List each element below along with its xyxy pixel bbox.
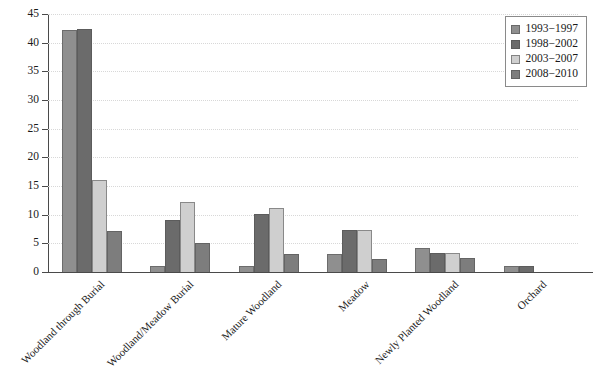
bar bbox=[357, 230, 372, 272]
legend-swatch-icon bbox=[511, 40, 520, 49]
bar bbox=[165, 220, 180, 272]
bar bbox=[415, 248, 430, 272]
y-axis-tick-mark bbox=[42, 43, 48, 44]
y-axis-tick-mark bbox=[42, 243, 48, 244]
y-axis-tick-mark bbox=[42, 157, 48, 158]
y-axis-tick-label: 5 bbox=[33, 238, 39, 250]
y-axis-tick-mark bbox=[42, 100, 48, 101]
legend-swatch-icon bbox=[511, 55, 520, 64]
bar bbox=[107, 231, 122, 272]
legend-item: 2008−2010 bbox=[511, 67, 579, 81]
bar bbox=[239, 266, 254, 272]
legend-item: 1998−2002 bbox=[511, 37, 579, 51]
y-axis-tick-label: 35 bbox=[28, 66, 40, 78]
y-axis-tick-mark bbox=[42, 186, 48, 187]
y-axis-tick-mark bbox=[42, 14, 48, 15]
bar-group bbox=[136, 14, 224, 272]
legend-label: 1998−2002 bbox=[526, 38, 579, 50]
bar-group bbox=[313, 14, 401, 272]
bar-chart: 051015202530354045 Woodland through Buri… bbox=[0, 0, 597, 385]
bar bbox=[254, 214, 269, 272]
x-axis-category-label: Woodland through Burial bbox=[19, 278, 107, 366]
chart-legend: 1993−19971998−20022003−20072008−2010 bbox=[505, 16, 588, 87]
bar bbox=[519, 266, 534, 272]
bar bbox=[445, 253, 460, 272]
x-axis-category-label: Newly Planted Woodland bbox=[372, 278, 460, 366]
x-axis-category-label: Orchard bbox=[514, 278, 548, 312]
bar bbox=[504, 266, 519, 272]
bar bbox=[372, 259, 387, 272]
legend-item: 2003−2007 bbox=[511, 52, 579, 66]
bar bbox=[430, 253, 445, 272]
legend-label: 1993−1997 bbox=[526, 23, 579, 35]
legend-swatch-icon bbox=[511, 70, 520, 79]
bar-group bbox=[401, 14, 489, 272]
plot-area bbox=[48, 14, 578, 272]
bar bbox=[77, 29, 92, 272]
y-axis-tick-label: 30 bbox=[28, 94, 40, 106]
bar bbox=[92, 180, 107, 272]
y-axis-tick-label: 15 bbox=[28, 180, 40, 192]
legend-item: 1993−1997 bbox=[511, 22, 579, 36]
x-axis-category-label: Woodland/Meadow Burial bbox=[104, 278, 195, 369]
y-axis-tick-mark bbox=[42, 215, 48, 216]
y-axis-tick-mark bbox=[42, 71, 48, 72]
legend-label: 2003−2007 bbox=[526, 53, 579, 65]
y-axis-tick-label: 0 bbox=[33, 266, 39, 278]
legend-swatch-icon bbox=[511, 25, 520, 34]
bar-group bbox=[225, 14, 313, 272]
bar bbox=[195, 243, 210, 272]
bar bbox=[327, 254, 342, 272]
y-axis-tick-mark bbox=[42, 129, 48, 130]
y-axis-tick-labels: 051015202530354045 bbox=[0, 14, 39, 272]
legend-label: 2008−2010 bbox=[526, 68, 579, 80]
bar bbox=[284, 254, 299, 272]
y-axis-tick-label: 10 bbox=[28, 209, 40, 221]
y-axis-tick-label: 40 bbox=[28, 37, 40, 49]
x-axis-category-label: Mature Woodland bbox=[219, 278, 284, 343]
bar bbox=[150, 266, 165, 272]
bar bbox=[460, 258, 475, 272]
bar-group bbox=[48, 14, 136, 272]
y-axis-tick-mark bbox=[42, 272, 48, 273]
y-axis-tick-label: 45 bbox=[28, 8, 40, 20]
bar bbox=[342, 230, 357, 272]
x-axis-category-labels: Woodland through BurialWoodland/Meadow B… bbox=[48, 274, 578, 385]
bar bbox=[269, 208, 284, 272]
x-axis-category-label: Meadow bbox=[336, 278, 372, 314]
bar bbox=[62, 30, 77, 272]
bars-layer bbox=[48, 14, 578, 272]
bar bbox=[180, 202, 195, 272]
x-axis-line bbox=[48, 272, 593, 273]
y-axis-tick-label: 20 bbox=[28, 152, 40, 164]
y-axis-tick-label: 25 bbox=[28, 123, 40, 135]
